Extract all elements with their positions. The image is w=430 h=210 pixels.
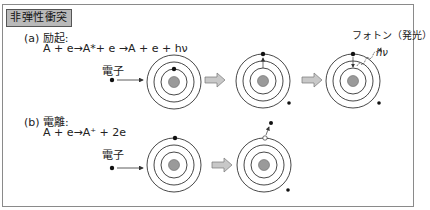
atom-ionized <box>237 121 291 192</box>
process-arrow-icon <box>302 73 322 87</box>
photon-wave-icon <box>357 48 381 66</box>
atom-excited-state <box>236 52 291 108</box>
atom-before-ionization <box>147 136 201 192</box>
incoming-electron-a <box>110 78 143 82</box>
atom-ground-state <box>147 55 201 109</box>
incoming-electron-b <box>110 166 143 170</box>
process-arrow-icon <box>205 73 225 87</box>
atom-emission <box>326 48 381 108</box>
process-arrow-icon <box>212 158 232 172</box>
